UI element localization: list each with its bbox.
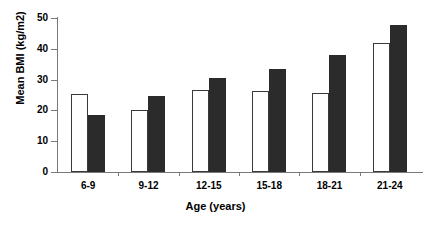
bar-white-series-21-24 [373, 43, 390, 172]
y-axis-tick-label: 0 [14, 167, 48, 177]
y-axis-tick-label: 10 [14, 136, 48, 146]
bar-white-series-12-15 [192, 90, 209, 172]
bar-white-series-15-18 [252, 91, 269, 172]
y-axis-tick-label: 40 [14, 44, 48, 54]
bar-group [360, 18, 420, 172]
x-axis-category-label: 18-21 [299, 180, 359, 191]
y-axis-tick [51, 49, 58, 50]
x-axis-tick [179, 172, 180, 176]
x-axis-category-label: 6-9 [58, 180, 118, 191]
x-axis-title: Age (years) [0, 200, 431, 212]
y-axis-tick-label: 50 [14, 13, 48, 23]
bar-group [239, 18, 299, 172]
bar-white-series-18-21 [312, 93, 329, 172]
x-axis-tick [118, 172, 119, 176]
plot-area [58, 18, 420, 172]
bar-black-series-12-15 [209, 78, 226, 172]
bar-white-series-9-12 [131, 110, 148, 172]
x-axis-line [57, 172, 423, 173]
x-axis-tick [299, 172, 300, 176]
bar-group [179, 18, 239, 172]
bar-black-series-9-12 [148, 96, 165, 172]
bar-black-series-15-18 [269, 69, 286, 172]
bar-group [58, 18, 118, 172]
bar-black-series-6-9 [88, 115, 105, 172]
bar-white-series-6-9 [71, 94, 88, 172]
x-axis-category-label: 12-15 [179, 180, 239, 191]
x-axis-tick [360, 172, 361, 176]
y-axis-tick [51, 18, 58, 19]
y-axis-tick [51, 141, 58, 142]
bar-black-series-18-21 [329, 55, 346, 172]
x-axis-category-label: 15-18 [239, 180, 299, 191]
bar-chart: Mean BMI (kg/m2) 01020304050 6-99-1212-1… [0, 0, 431, 225]
x-axis-category-label: 9-12 [118, 180, 178, 191]
bar-group [118, 18, 178, 172]
x-axis-tick [239, 172, 240, 176]
y-axis-tick-label: 20 [14, 105, 48, 115]
x-axis-category-label: 21-24 [360, 180, 420, 191]
y-axis-tick [51, 80, 58, 81]
y-axis-tick-label: 30 [14, 75, 48, 85]
y-axis-tick [51, 110, 58, 111]
bar-group [299, 18, 359, 172]
y-axis-tick [51, 172, 58, 173]
bar-black-series-21-24 [390, 25, 407, 172]
